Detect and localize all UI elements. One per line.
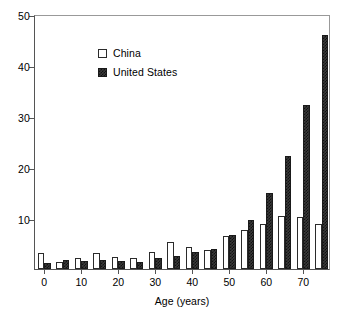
bar-united-states — [211, 249, 217, 269]
bar-china — [149, 252, 155, 269]
x-axis-tick-label: 50 — [223, 276, 235, 288]
x-axis-tick — [229, 269, 230, 274]
y-axis-tick-label: 50 — [18, 10, 30, 22]
bar-united-states — [44, 263, 50, 269]
bar-united-states — [266, 193, 272, 269]
x-axis-tick — [155, 269, 156, 274]
bar-group — [54, 16, 73, 269]
plot-area: 1020304050 010203040506070 China United … — [34, 15, 330, 270]
legend-label-united-states: United States — [113, 66, 177, 78]
bar-group — [202, 16, 221, 269]
legend: China United States — [98, 47, 177, 85]
bar-chart-figure: 1020304050 010203040506070 China United … — [0, 0, 345, 320]
bar-series-container — [35, 16, 329, 269]
x-axis-tick — [118, 269, 119, 274]
bar-group — [239, 16, 258, 269]
x-axis-tick-label: 70 — [297, 276, 309, 288]
x-axis-tick-label: 10 — [75, 276, 87, 288]
bar-united-states — [155, 258, 161, 269]
bar-united-states — [81, 261, 87, 269]
legend-swatch-united-states-icon — [98, 68, 107, 77]
bar-china — [75, 258, 81, 269]
x-axis-tick — [192, 269, 193, 274]
x-axis-tick-label: 40 — [186, 276, 198, 288]
bar-china — [297, 217, 303, 269]
bar-china — [315, 224, 321, 269]
bar-united-states — [322, 35, 328, 269]
bar-china — [38, 253, 44, 269]
bar-group — [183, 16, 202, 269]
bar-united-states — [192, 252, 198, 269]
bar-china — [204, 250, 210, 269]
bar-united-states — [174, 256, 180, 269]
x-axis-tick — [44, 269, 45, 274]
bar-group — [276, 16, 295, 269]
bar-united-states — [63, 260, 69, 269]
x-axis-tick — [266, 269, 267, 274]
bar-china — [56, 262, 62, 269]
x-axis-tick — [81, 269, 82, 274]
y-axis-tick-label: 30 — [18, 112, 30, 124]
bar-china — [260, 224, 266, 269]
x-axis-tick-label: 20 — [112, 276, 124, 288]
bar-united-states — [285, 156, 291, 269]
bar-group — [72, 16, 91, 269]
legend-item-united-states: United States — [98, 66, 177, 78]
bar-group — [220, 16, 239, 269]
bar-united-states — [248, 220, 254, 269]
y-axis-tick-label: 20 — [18, 163, 30, 175]
bar-group — [294, 16, 313, 269]
x-axis-tick-label: 30 — [149, 276, 161, 288]
x-axis-title: Age (years) — [34, 295, 330, 307]
bar-united-states — [100, 260, 106, 269]
bar-china — [130, 258, 136, 269]
bar-china — [278, 216, 284, 269]
bar-china — [93, 253, 99, 269]
bar-group — [35, 16, 54, 269]
bar-united-states — [303, 105, 309, 269]
bar-united-states — [229, 235, 235, 269]
legend-swatch-china-icon — [98, 49, 107, 58]
bar-united-states — [118, 261, 124, 269]
bar-united-states — [137, 262, 143, 269]
y-axis-tick-label: 10 — [18, 214, 30, 226]
bar-china — [241, 230, 247, 269]
bar-china — [167, 242, 173, 269]
legend-item-china: China — [98, 47, 177, 59]
x-axis-tick-label: 0 — [41, 276, 47, 288]
bar-china — [186, 247, 192, 269]
bar-china — [112, 257, 118, 269]
x-axis-tick-label: 60 — [260, 276, 272, 288]
y-axis-tick-label: 40 — [18, 61, 30, 73]
x-axis-tick — [303, 269, 304, 274]
legend-label-china: China — [113, 47, 141, 59]
bar-group — [257, 16, 276, 269]
bar-group — [313, 16, 332, 269]
bar-china — [223, 236, 229, 269]
